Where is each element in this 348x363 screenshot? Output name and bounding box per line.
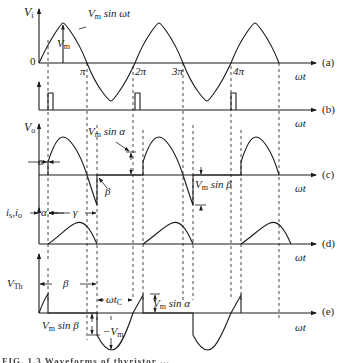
panel-c-beta-label: β: [105, 186, 110, 197]
panel-a-ylabel: Vi: [24, 6, 34, 20]
panel-a-tag: (a): [322, 57, 334, 68]
output-voltage-2: [97, 137, 193, 205]
figure-caption: FIG. 1.3 Waveforms of thyristor ...: [2, 356, 202, 363]
panel-e-tag: (e): [322, 306, 334, 317]
panel-d-ylabel: is,io: [6, 207, 22, 220]
panel-c-tag: (c): [322, 169, 334, 180]
current-pulse-2: [143, 222, 193, 244]
input-sine: [39, 23, 279, 101]
panel-c-vm-sin-alpha: Vm sin α: [88, 126, 125, 139]
panel-e-neg-vm-label: −Vm: [103, 326, 123, 339]
panel-d-gamma-label: γ: [73, 207, 77, 218]
current-pulse-1: [48, 222, 97, 244]
tick-2pi: 2π: [135, 66, 146, 77]
panel-e-ylabel: VTh: [7, 278, 23, 291]
panel-d-xlabel: ωt: [295, 252, 306, 263]
gate-pulse-2: [135, 93, 140, 110]
panel-a-origin-label: 0: [30, 56, 36, 67]
gate-pulse-1: [48, 93, 53, 110]
output-voltage-1: [48, 137, 97, 205]
panel-a-curve-label: Vm sin ωt: [88, 8, 130, 21]
panel-c-ylabel: Vo: [24, 121, 35, 135]
panel-b: [39, 82, 316, 110]
panel-c-xlabel: ωt: [295, 183, 306, 194]
guide-lines: [48, 40, 279, 340]
panel-c: [28, 124, 316, 210]
panel-c-vm-sin-beta: Vm sin β: [195, 179, 232, 192]
panel-e-xlabel: ωt: [295, 322, 306, 333]
current-pulse-3: [241, 222, 291, 244]
panel-c-alpha-label: α: [38, 156, 44, 167]
panel-e-wtc-label: ωtC: [106, 294, 122, 307]
tick-3pi: 3π: [172, 66, 183, 77]
panel-d-tag: (d): [322, 238, 335, 249]
tick-pi: π: [80, 66, 86, 77]
panel-a-amplitude-label: Vm: [57, 38, 70, 51]
gate-pulse-3: [231, 93, 236, 110]
panel-b-tag: (b): [322, 104, 335, 115]
panel-a: [39, 9, 316, 101]
panel-e-vm-sin-alpha: Vm sin α: [153, 298, 190, 311]
panel-b-xlabel: ωt: [295, 118, 306, 129]
output-voltage-3: [193, 137, 279, 175]
panel-d-alpha-label: α: [41, 207, 47, 218]
panel-e-vm-sin-beta: Vm sin β: [42, 320, 79, 333]
panel-e-beta-label: β: [63, 278, 68, 289]
tick-4pi: 4π: [233, 66, 244, 77]
panel-a-xlabel: ωt: [295, 71, 306, 82]
